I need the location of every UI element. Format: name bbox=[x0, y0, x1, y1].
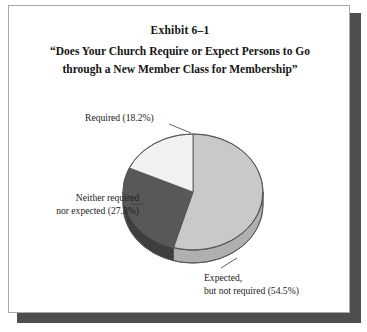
pie-chart-svg bbox=[9, 6, 351, 314]
label-required: Required (18.2%) bbox=[85, 112, 154, 125]
label-required-text: Required (18.2%) bbox=[85, 112, 154, 123]
leader-line-expected bbox=[221, 258, 237, 268]
label-expected-line-2: but not required (54.5%) bbox=[204, 285, 299, 298]
pie-chart: Required (18.2%) Neither required nor ex… bbox=[9, 6, 351, 314]
label-expected-but-not-required: Expected, but not required (54.5%) bbox=[204, 272, 299, 297]
exhibit-frame: Exhibit 6–1 “Does Your Church Require or… bbox=[8, 5, 350, 313]
label-expected-line-1: Expected, bbox=[204, 272, 299, 285]
label-neither-line-1: Neither required bbox=[27, 192, 139, 205]
figure-screenshot: Exhibit 6–1 “Does Your Church Require or… bbox=[0, 0, 367, 332]
label-neither-line-2: nor expected (27.3%) bbox=[27, 205, 139, 218]
label-neither-required-nor-expected: Neither required nor expected (27.3%) bbox=[27, 192, 139, 217]
leader-line-required bbox=[169, 124, 191, 133]
